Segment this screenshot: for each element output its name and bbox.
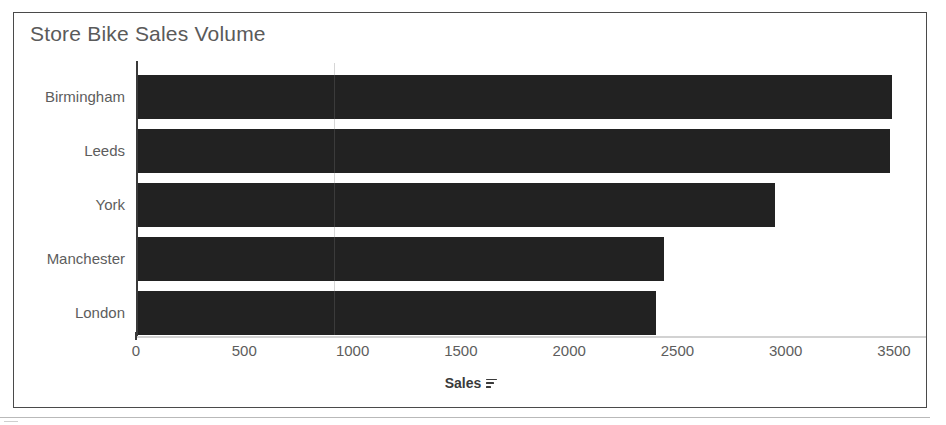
plot-area <box>136 61 926 336</box>
x-axis-line <box>136 336 926 338</box>
bar-birmingham[interactable] <box>138 75 892 119</box>
scan-artifact-line-secondary <box>4 421 18 422</box>
x-tick-500: 500 <box>232 342 257 359</box>
y-axis-label-leeds: Leeds <box>84 129 125 173</box>
chart-panel: Store Bike Sales Volume BirminghamLeedsY… <box>13 12 927 408</box>
x-tick-2000: 2000 <box>552 342 585 359</box>
y-axis-label-london: London <box>75 291 125 335</box>
x-tick-2500: 2500 <box>661 342 694 359</box>
x-tick-3000: 3000 <box>769 342 802 359</box>
chart-title: Store Bike Sales Volume <box>30 22 266 46</box>
bar-manchester[interactable] <box>138 237 664 281</box>
x-tick-0: 0 <box>132 342 140 359</box>
y-axis-label-manchester: Manchester <box>47 237 125 281</box>
scan-artifact-line <box>0 417 930 418</box>
x-axis-title: Sales <box>14 375 928 391</box>
y-axis-label-birmingham: Birmingham <box>45 75 125 119</box>
bar-fill <box>138 183 775 227</box>
bar-fill <box>138 129 890 173</box>
bar-york[interactable] <box>138 183 775 227</box>
x-axis-tick-labels: 0500100015002000250030003500 <box>14 342 928 368</box>
x-axis-origin-tick <box>135 332 137 340</box>
y-axis-label-york: York <box>96 183 125 227</box>
bar-fill <box>138 237 664 281</box>
x-tick-1000: 1000 <box>336 342 369 359</box>
y-axis-category-labels: BirminghamLeedsYorkManchesterLondon <box>14 61 129 336</box>
x-axis-title-label: Sales <box>445 375 482 391</box>
bar-fill <box>138 75 892 119</box>
sort-descending-icon[interactable] <box>486 379 497 390</box>
x-tick-3500: 3500 <box>877 342 910 359</box>
scan-gridline-artifact <box>334 63 335 335</box>
bar-fill <box>138 291 656 335</box>
bar-leeds[interactable] <box>138 129 890 173</box>
x-tick-1500: 1500 <box>444 342 477 359</box>
bar-london[interactable] <box>138 291 656 335</box>
